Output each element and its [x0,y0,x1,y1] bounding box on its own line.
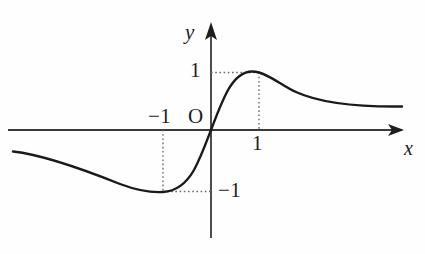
x-tick-label-minus-1: −1 [148,106,171,127]
y-tick-label-minus-1: −1 [218,180,241,201]
graph-plot-area [0,0,425,254]
x-axis-label: x [404,138,413,158]
origin-label: O [188,106,203,127]
y-tick-label-1: 1 [190,60,201,81]
x-tick-label-1: 1 [252,133,263,154]
y-axis-label: y [185,22,194,43]
figure-canvas: y x 1 −1 −1 1 O [0,0,425,254]
function-curve [13,71,402,192]
